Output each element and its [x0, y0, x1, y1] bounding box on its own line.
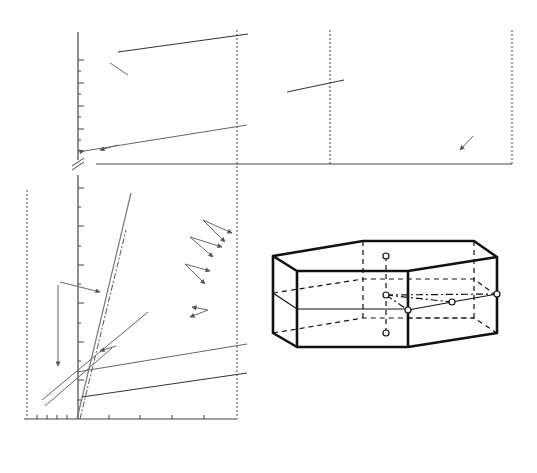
bz-point-A-top: [383, 253, 389, 259]
steep-branch-line: [77, 193, 131, 419]
annotation-V-line: [287, 80, 344, 92]
annotation-TAperp-arrow-1: [192, 307, 208, 310]
bz-point-M: [449, 299, 455, 305]
top-chart: [0, 0, 512, 419]
annotation-GM-arrow-1: [190, 237, 222, 247]
annotation-TAperp-arrow-2: [190, 310, 208, 317]
annotation-II-line: [77, 344, 247, 372]
steep-branch-dashdot: [80, 230, 126, 419]
bz-gamma-K-line: [386, 294, 497, 295]
brillouin-zone-diagram: [273, 241, 500, 347]
annotation-LO-line: [110, 63, 128, 75]
bz-point-Gamma: [383, 292, 389, 298]
annotation-III-line: [118, 34, 248, 52]
bottom-chart: [0, 0, 247, 419]
annotation-TOperp-arrow-2: [203, 220, 225, 242]
annotation-IV-line: [84, 125, 247, 151]
annotation-TOperp-right-arrow: [460, 136, 473, 150]
bz-point-A-bottom: [383, 330, 389, 336]
bz-point-K-right: [494, 291, 500, 297]
phonon-dispersion-figure: [0, 0, 537, 473]
bz-point-K-front: [405, 307, 411, 313]
annotation-TOperp-arrow-1: [203, 220, 232, 233]
bz-gamma-M-line: [386, 295, 452, 302]
annotation-GM-arrow-2: [190, 237, 213, 257]
annotation-LA-arrow: [100, 346, 116, 351]
annotation-I-line: [82, 373, 247, 397]
top-y-ticks: [78, 60, 84, 151]
annotation-TOperp-arrow: [100, 145, 118, 150]
